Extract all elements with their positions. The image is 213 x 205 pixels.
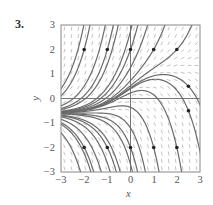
slope-mark — [182, 115, 183, 119]
slope-mark — [175, 108, 177, 112]
slope-mark — [112, 144, 114, 148]
slope-mark — [195, 79, 198, 82]
slope-mark — [64, 145, 66, 149]
slope-mark — [106, 41, 107, 45]
slope-mark — [154, 122, 155, 126]
slope-mark — [98, 137, 100, 140]
slope-mark — [168, 27, 170, 31]
slope-mark — [71, 34, 72, 38]
slope-mark — [64, 56, 65, 60]
slope-mark — [106, 34, 107, 38]
slope-mark — [154, 115, 156, 119]
initial-point — [175, 146, 179, 150]
slope-mark — [161, 166, 162, 170]
slope-mark — [119, 159, 120, 163]
slope-mark — [63, 130, 66, 133]
slope-mark — [119, 144, 121, 148]
slope-mark — [167, 65, 171, 66]
slope-mark — [154, 27, 155, 31]
slope-mark — [154, 42, 156, 46]
initial-point — [129, 146, 133, 150]
slope-mark — [126, 159, 127, 163]
slope-mark — [140, 108, 143, 111]
slope-mark — [189, 166, 190, 170]
initial-point — [175, 48, 179, 52]
slope-mark — [70, 86, 72, 89]
slope-mark — [139, 94, 143, 95]
slope-mark — [161, 27, 162, 31]
slope-mark — [167, 49, 170, 52]
initial-point — [187, 109, 191, 113]
slope-mark — [147, 144, 148, 148]
slope-mark — [133, 71, 135, 74]
slope-mark — [154, 137, 155, 141]
slope-mark — [147, 42, 149, 46]
slope-mark — [112, 71, 114, 75]
slope-mark — [91, 152, 93, 156]
slope-mark — [147, 159, 148, 163]
slope-mark — [174, 72, 178, 73]
slope-mark — [119, 152, 120, 156]
slope-mark — [140, 137, 141, 141]
slope-mark — [140, 130, 142, 134]
slope-mark — [77, 145, 79, 149]
slope-mark — [153, 72, 157, 73]
x-tick-label: 3 — [197, 175, 202, 186]
slope-mark — [196, 152, 197, 156]
slope-mark — [85, 159, 86, 163]
slope-mark — [78, 27, 79, 31]
slope-mark — [196, 159, 197, 163]
slope-mark — [154, 166, 155, 170]
slope-mark — [91, 78, 93, 82]
slope-mark — [71, 49, 72, 53]
slope-mark — [146, 94, 150, 96]
slope-mark — [91, 93, 94, 96]
slope-mark — [113, 166, 114, 170]
slope-mark — [146, 101, 149, 104]
slope-mark — [133, 115, 136, 118]
slope-mark — [78, 71, 80, 75]
slope-mark — [175, 166, 176, 170]
slope-mark — [168, 137, 169, 141]
slope-mark — [91, 137, 93, 140]
slope-mark — [147, 34, 148, 38]
slope-mark — [98, 86, 100, 89]
slope-mark — [106, 27, 107, 31]
slope-mark — [104, 116, 108, 117]
slope-mark — [189, 144, 190, 148]
slope-mark — [181, 57, 185, 59]
slope-mark — [140, 56, 142, 60]
slope-mark — [175, 100, 177, 104]
slope-mark — [181, 65, 185, 66]
slope-mark — [175, 42, 177, 45]
slope-mark — [188, 72, 192, 73]
slope-mark — [99, 41, 100, 45]
slope-mark — [126, 144, 128, 148]
slope-mark — [133, 123, 135, 126]
initial-point — [152, 146, 156, 150]
slope-mark — [175, 130, 176, 134]
slope-mark — [119, 86, 122, 89]
slope-mark — [168, 34, 170, 38]
slope-mark — [161, 122, 162, 126]
slope-mark — [147, 137, 148, 141]
x-tick-label: −2 — [78, 175, 89, 186]
slope-mark — [154, 101, 156, 104]
slope-mark — [92, 159, 93, 163]
slope-mark — [127, 34, 128, 38]
slope-mark — [125, 116, 128, 118]
x-tick-label: −1 — [101, 175, 112, 186]
slope-mark — [71, 56, 72, 60]
y-axis-label: y — [30, 96, 41, 101]
slope-mark — [175, 27, 177, 31]
slope-mark — [76, 116, 80, 117]
slope-mark — [85, 27, 86, 31]
slope-mark — [98, 152, 100, 156]
slope-mark — [85, 56, 86, 60]
slope-mark — [189, 137, 190, 141]
slope-mark — [160, 64, 163, 66]
slope-mark — [119, 49, 120, 53]
initial-point — [82, 48, 86, 52]
slope-mark — [188, 57, 192, 59]
slope-mark — [182, 166, 183, 170]
